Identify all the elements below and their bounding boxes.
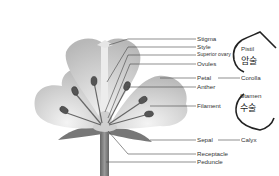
label-sepal: Sepal <box>197 136 213 143</box>
flower-diagram: Stigma Style Superior ovary Ovules Petal… <box>0 0 279 176</box>
label-stigma: Stigma <box>197 35 216 42</box>
label-petal: Petal <box>197 74 211 81</box>
label-ovules: Ovules <box>197 60 216 67</box>
label-filament: Filament <box>197 102 221 109</box>
group-corolla: Corolla <box>241 74 261 81</box>
korean-pistil: 암술 <box>241 54 257 67</box>
label-superior-ovary: Superior ovary <box>197 51 231 58</box>
group-pistil: Pistil <box>241 45 254 52</box>
sepal-right <box>108 129 152 143</box>
label-receptacle: Receptacle <box>197 150 228 157</box>
group-calyx: Calyx <box>241 136 256 143</box>
label-style: Style <box>197 43 211 50</box>
group-stamen: Stamen <box>240 92 261 99</box>
annotation-brackets <box>233 32 276 130</box>
label-peduncle: Peduncle <box>197 158 223 165</box>
flower-illustration <box>0 0 279 176</box>
peduncle-shape <box>100 128 109 176</box>
label-anther: Anther <box>197 83 215 90</box>
korean-stamen: 수술 <box>240 101 256 114</box>
